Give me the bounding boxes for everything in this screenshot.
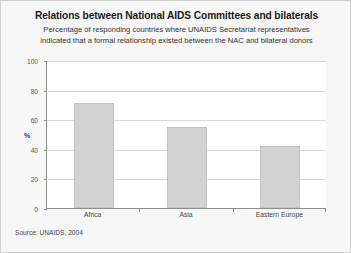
y-axis-title: %	[24, 132, 30, 139]
plot-area	[46, 61, 326, 209]
y-tick-label: 60	[31, 117, 38, 124]
y-tick-label: 0	[34, 206, 38, 213]
bar-africa[interactable]	[74, 103, 114, 208]
bar-eastern-europe[interactable]	[260, 146, 300, 208]
bar-asia[interactable]	[167, 127, 207, 208]
x-tick-label-asia: Asia	[179, 211, 192, 218]
x-tick-mark	[139, 209, 140, 212]
source-note: Source: UNAIDS, 2004	[15, 229, 83, 236]
y-tick-label: 100	[27, 58, 38, 65]
y-tick-mark	[44, 150, 47, 151]
y-tick-mark	[44, 61, 47, 62]
y-tick-mark	[44, 179, 47, 180]
x-tick-mark	[325, 209, 326, 212]
gridline	[47, 61, 326, 62]
page-title: Relations between National AIDS Committe…	[1, 10, 351, 21]
slide-canvas: Relations between National AIDS Committe…	[0, 0, 351, 253]
y-tick-label: 80	[31, 87, 38, 94]
y-tick-label: 40	[31, 146, 38, 153]
x-tick-label-africa: Africa	[84, 211, 101, 218]
x-axis-tick-labels: AfricaAsiaEastern Europe	[46, 211, 326, 225]
y-tick-label: 20	[31, 176, 38, 183]
y-tick-mark	[44, 120, 47, 121]
x-tick-label-eastern-europe: Eastern Europe	[256, 211, 303, 218]
gridline	[47, 91, 326, 92]
subtitle-line-2: indicated that a formal relationship exi…	[1, 36, 351, 45]
y-tick-mark	[44, 91, 47, 92]
y-axis-tick-labels: 020406080100	[1, 61, 42, 209]
subtitle-line-1: Percentage of responding countries where…	[1, 25, 351, 34]
y-tick-mark	[44, 209, 47, 210]
x-tick-mark	[233, 209, 234, 212]
